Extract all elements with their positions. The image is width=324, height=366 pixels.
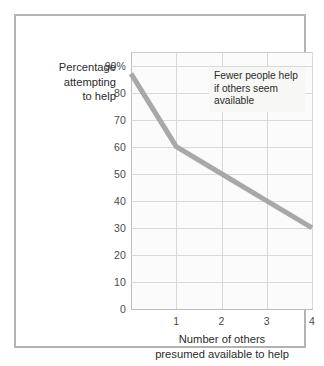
x-axis-title-line-1: Number of others bbox=[112, 332, 324, 347]
x-axis-title: Number of others presumed available to h… bbox=[112, 332, 324, 361]
y-tick-label: 60 bbox=[86, 142, 126, 153]
y-tick-label: 30 bbox=[86, 223, 126, 234]
annotation-line-3: available bbox=[214, 95, 301, 108]
y-axis-title: Percentage attempting to help bbox=[26, 60, 116, 104]
y-tick-label: 50 bbox=[86, 169, 126, 180]
x-tick-label: 3 bbox=[252, 316, 282, 327]
y-tick-label: 40 bbox=[86, 196, 126, 207]
x-axis-title-line-2: presumed available to help bbox=[112, 347, 324, 362]
chart-annotation: Fewer people help if others seem availab… bbox=[209, 67, 305, 112]
y-tick-label: 70 bbox=[86, 115, 126, 126]
annotation-line-1: Fewer people help bbox=[214, 70, 301, 83]
x-tick-label: 2 bbox=[207, 316, 237, 327]
y-axis-title-line-2: attempting bbox=[26, 75, 116, 90]
x-tick-label: 1 bbox=[161, 316, 191, 327]
y-tick-label: 20 bbox=[86, 250, 126, 261]
annotation-line-2: if others seem bbox=[214, 83, 301, 96]
chart-figure: 0102030405060708090% 1234 Percentage att… bbox=[14, 14, 306, 348]
y-tick-label: 0 bbox=[86, 304, 126, 315]
x-tick-label: 4 bbox=[297, 316, 324, 327]
y-axis-title-line-3: to help bbox=[26, 89, 116, 104]
y-axis-title-line-1: Percentage bbox=[26, 60, 116, 75]
y-tick-label: 10 bbox=[86, 277, 126, 288]
